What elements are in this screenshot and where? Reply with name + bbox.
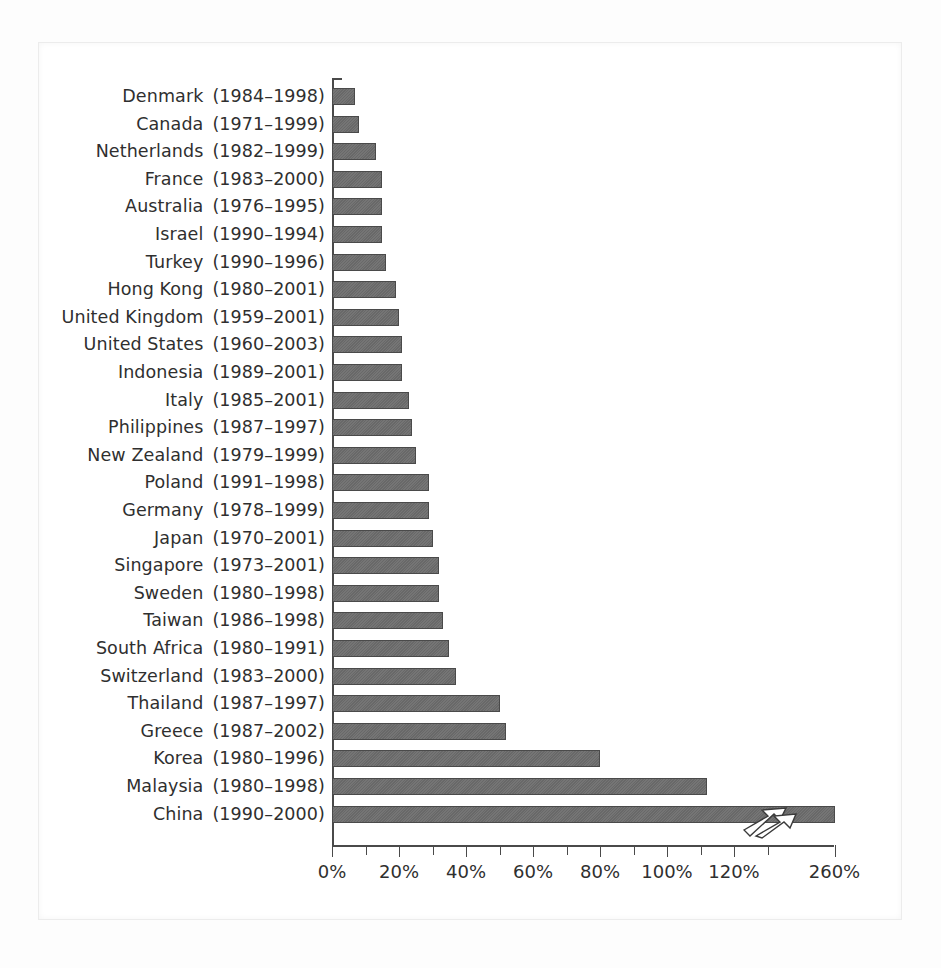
category-years: (1987–1997) — [212, 414, 325, 441]
x-axis-line — [332, 845, 834, 847]
category-years: (1980–2001) — [212, 276, 325, 303]
category-years: (1960–2003) — [212, 331, 325, 358]
bar — [332, 585, 439, 602]
category-country: Switzerland — [100, 663, 203, 690]
bar-row-label: South Africa(1980–1991) — [60, 635, 325, 662]
x-tick — [500, 845, 501, 855]
bar-row-label: Israel(1990–1994) — [60, 221, 325, 248]
category-years: (1987–2002) — [212, 718, 325, 745]
category-years: (1979–1999) — [212, 442, 325, 469]
bar-row-label: Poland(1991–1998) — [60, 469, 325, 496]
category-country: Greece — [141, 718, 204, 745]
category-years: (1990–1994) — [212, 221, 325, 248]
category-country: New Zealand — [87, 442, 203, 469]
bar — [332, 695, 500, 712]
bar-row: Germany(1978–1999) — [0, 497, 941, 524]
x-tick-label: 100% — [641, 861, 692, 882]
category-label: Denmark(1984–1998) — [60, 83, 325, 110]
bar-row: Taiwan(1986–1998) — [0, 607, 941, 634]
category-years: (1982–1999) — [212, 138, 325, 165]
bar-row: Italy(1985–2001) — [0, 387, 941, 414]
bar — [332, 530, 433, 547]
bar — [332, 392, 409, 409]
x-tick — [332, 845, 333, 857]
bar-row-label: Singapore(1973–2001) — [60, 552, 325, 579]
category-years: (1989–2001) — [212, 359, 325, 386]
bar-row: Korea(1980–1996) — [0, 745, 941, 772]
category-years: (1980–1998) — [212, 773, 325, 800]
x-tick — [634, 845, 635, 855]
bar — [332, 254, 386, 271]
category-country: Sweden — [134, 580, 204, 607]
bar — [332, 668, 456, 685]
x-tick — [567, 845, 568, 855]
bar-row: New Zealand(1979–1999) — [0, 442, 941, 469]
x-tick — [734, 845, 735, 857]
category-years: (1983–2000) — [212, 663, 325, 690]
category-label: Poland(1991–1998) — [60, 469, 325, 496]
category-label: Sweden(1980–1998) — [60, 580, 325, 607]
category-years: (1978–1999) — [212, 497, 325, 524]
x-tick — [466, 845, 467, 857]
bar-row-label: Switzerland(1983–2000) — [60, 663, 325, 690]
category-label: Turkey(1990–1996) — [60, 249, 325, 276]
category-country: China — [153, 801, 204, 828]
category-label: United Kingdom(1959–2001) — [60, 304, 325, 331]
bar — [332, 116, 359, 133]
category-years: (1959–2001) — [212, 304, 325, 331]
category-label: Thailand(1987–1997) — [60, 690, 325, 717]
bar — [332, 171, 382, 188]
category-years: (1991–1998) — [212, 469, 325, 496]
bar-row-label: New Zealand(1979–1999) — [60, 442, 325, 469]
category-country: United Kingdom — [62, 304, 204, 331]
bar — [332, 309, 399, 326]
category-years: (1984–1998) — [212, 83, 325, 110]
category-country: Singapore — [114, 552, 203, 579]
bar-row-label: Malaysia(1980–1998) — [60, 773, 325, 800]
category-label: New Zealand(1979–1999) — [60, 442, 325, 469]
bar-row-label: Taiwan(1986–1998) — [60, 607, 325, 634]
bar-row-label: Indonesia(1989–2001) — [60, 359, 325, 386]
bar-row: Thailand(1987–1997) — [0, 690, 941, 717]
category-country: France — [145, 166, 204, 193]
category-years: (1990–1996) — [212, 249, 325, 276]
x-tick — [835, 845, 836, 857]
category-label: Korea(1980–1996) — [60, 745, 325, 772]
category-country: South Africa — [96, 635, 204, 662]
category-country: Australia — [125, 193, 203, 220]
category-country: United States — [84, 331, 204, 358]
category-label: Taiwan(1986–1998) — [60, 607, 325, 634]
x-tick-label: 20% — [379, 861, 419, 882]
category-label: Germany(1978–1999) — [60, 497, 325, 524]
category-label: Singapore(1973–2001) — [60, 552, 325, 579]
category-label: Canada(1971–1999) — [60, 111, 325, 138]
bar-row: Malaysia(1980–1998) — [0, 773, 941, 800]
bar — [332, 750, 600, 767]
bar-row-label: United Kingdom(1959–2001) — [60, 304, 325, 331]
bar-row-label: Korea(1980–1996) — [60, 745, 325, 772]
bar — [332, 143, 376, 160]
bar-row: Netherlands(1982–1999) — [0, 138, 941, 165]
category-years: (1971–1999) — [212, 111, 325, 138]
category-years: (1970–2001) — [212, 525, 325, 552]
bar-row-label: Sweden(1980–1998) — [60, 580, 325, 607]
bar — [332, 281, 396, 298]
category-label: France(1983–2000) — [60, 166, 325, 193]
category-label: Israel(1990–1994) — [60, 221, 325, 248]
category-label: Indonesia(1989–2001) — [60, 359, 325, 386]
x-tick-label: 0% — [318, 861, 347, 882]
bar-row: Switzerland(1983–2000) — [0, 663, 941, 690]
bar-row: France(1983–2000) — [0, 166, 941, 193]
category-years: (1985–2001) — [212, 387, 325, 414]
bar — [332, 364, 402, 381]
bar-row: United States(1960–2003) — [0, 331, 941, 358]
bar — [332, 336, 402, 353]
bar-row-label: Italy(1985–2001) — [60, 387, 325, 414]
bar-row-label: Philippines(1987–1997) — [60, 414, 325, 441]
category-country: Thailand — [127, 690, 203, 717]
bar — [332, 640, 449, 657]
bar-row: United Kingdom(1959–2001) — [0, 304, 941, 331]
bar-chart: Denmark(1984–1998)Canada(1971–1999)Nethe… — [0, 0, 941, 968]
bar-row: Indonesia(1989–2001) — [0, 359, 941, 386]
category-years: (1990–2000) — [212, 801, 325, 828]
